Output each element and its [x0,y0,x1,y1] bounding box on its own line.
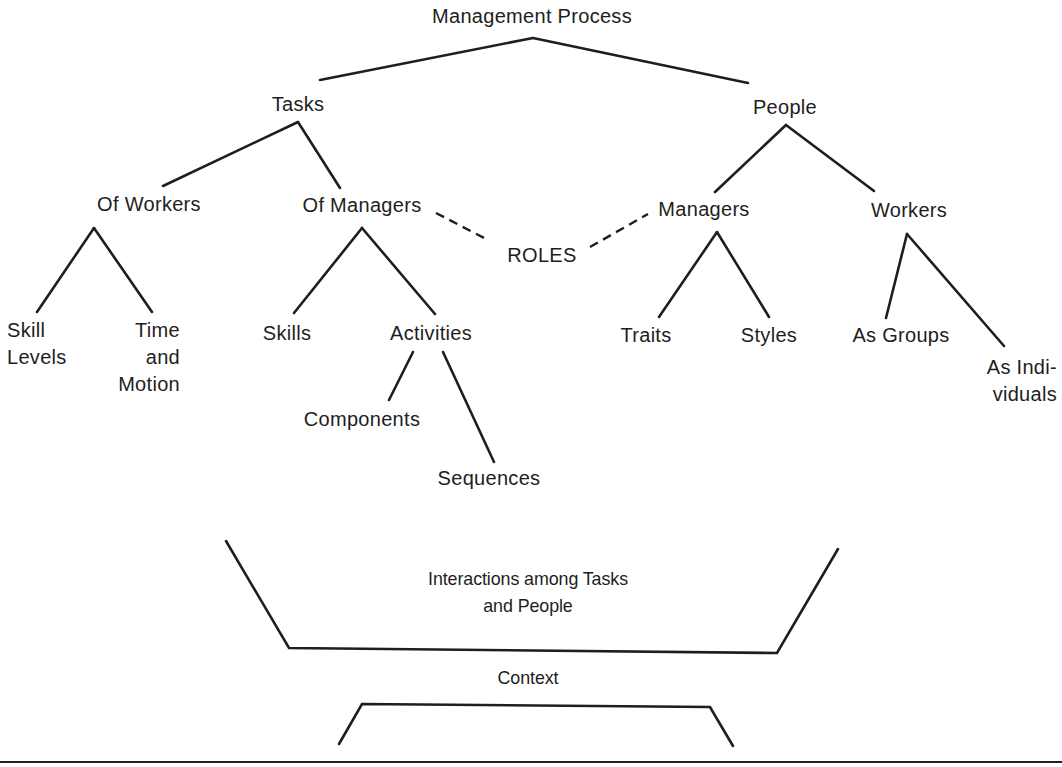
node-of-workers: Of Workers [97,191,201,218]
node-roles: ROLES [507,242,576,269]
edge-tasks-ofworkers [163,122,298,186]
node-people: People [753,94,817,121]
edge-root-people [533,38,748,83]
node-components: Components [304,406,420,433]
node-activities: Activities [390,320,472,347]
node-management-process: Management Process [432,3,632,30]
edge-people-workers [786,125,874,191]
edge-ofmanagers-activities [362,228,435,314]
dashed-edge-roles-managers [590,214,648,247]
management-process-diagram: Management Process Tasks People Of Worke… [0,0,1062,767]
node-managers: Managers [658,196,749,223]
node-as-groups: As Groups [852,322,949,349]
node-skills: Skills [263,320,311,347]
edge-managers-traits [659,232,717,317]
node-sequences: Sequences [438,465,541,492]
edge-root-tasks [320,38,533,80]
node-styles: Styles [741,322,797,349]
edge-managers-styles [717,232,769,317]
edge-ofworkers-timemotion [94,228,152,312]
node-as-individuals: As Indi- viduals [955,354,1057,408]
edge-ofworkers-skilllevels [37,228,94,312]
context-label: Context [498,664,559,691]
edge-tasks-ofmanagers [298,122,340,188]
node-of-managers: Of Managers [303,192,422,219]
edge-people-managers [715,125,786,192]
node-traits: Traits [620,322,671,349]
node-workers: Workers [871,197,947,224]
node-time-and-motion: Time and Motion [92,317,180,398]
edge-activities-sequences [443,352,494,462]
edge-ofmanagers-skills [294,228,362,313]
interactions-label: Interactions among Tasks and People [428,565,628,619]
dashed-edge-ofmanagers-roles [436,213,488,240]
node-tasks: Tasks [272,91,325,118]
edge-activities-components [389,352,413,400]
edge-workers-asgroups [886,234,907,318]
context-bracket [339,704,733,746]
node-skill-levels: Skill Levels [7,317,67,371]
